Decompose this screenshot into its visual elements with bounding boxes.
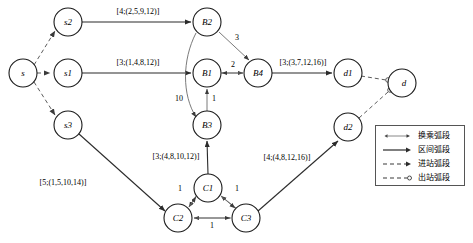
legend-item-entry: 进站弧段 xyxy=(376,157,464,171)
node-s2[interactable]: s2 xyxy=(54,8,82,36)
weight-label-C3-C1: 1 xyxy=(235,184,239,193)
node-C3[interactable]: C3 xyxy=(232,204,260,232)
node-label: C1 xyxy=(203,183,214,193)
edge-label-C1-B3: [3;(4,8,10,12)] xyxy=(153,152,200,161)
edge-label-C3-d2: [4;(4,8,12,16)] xyxy=(264,153,311,162)
edge-label-s3-C2: [5;(1,5,10,14)] xyxy=(40,178,87,187)
weight-label-B3-B1: 1 xyxy=(212,94,216,103)
section-arc-icon xyxy=(380,145,414,155)
legend-item-section: 区间弧段 xyxy=(376,143,464,157)
edge-C1-C3 xyxy=(221,196,235,208)
edge-B2-B4 xyxy=(219,32,249,60)
node-label: s3 xyxy=(64,120,73,130)
graph-canvas: s s2 s1 s3 B2 B1 xyxy=(0,0,473,243)
node-s[interactable]: s xyxy=(9,59,37,87)
node-label: s xyxy=(21,68,25,78)
node-label: B1 xyxy=(202,68,212,78)
node-label: C3 xyxy=(241,213,252,223)
weight-label-C1-C2: 1 xyxy=(178,184,182,193)
edge-C1-B3 xyxy=(207,141,208,174)
node-label: s1 xyxy=(64,68,72,78)
edge-C2-C1 xyxy=(189,197,196,207)
legend-label-exit: 出站弧段 xyxy=(418,173,450,183)
exit-arc-icon xyxy=(380,173,414,183)
node-C2[interactable]: C2 xyxy=(164,204,192,232)
nodes: s s2 s1 s3 B2 B1 xyxy=(9,8,416,232)
legend-label-transfer: 换乘弧段 xyxy=(418,131,450,141)
node-label: s2 xyxy=(64,17,73,27)
edge-label-B4-d1: [3;(3,7,12,16)] xyxy=(280,58,327,67)
node-label: C2 xyxy=(173,213,184,223)
weight-label-B1-B4: 2 xyxy=(231,60,235,69)
node-s3[interactable]: s3 xyxy=(54,111,82,139)
legend-label-section: 区间弧段 xyxy=(418,145,450,155)
edge-labels: [4;(2,5,9,12)] [3;(1,4,8,12)] [3;(3,7,12… xyxy=(40,7,327,230)
node-label: d xyxy=(402,78,407,88)
edge-d1-d xyxy=(361,76,386,80)
node-label: B2 xyxy=(202,17,212,27)
edge-s-s2 xyxy=(34,31,55,65)
node-label: B3 xyxy=(202,120,212,130)
node-d[interactable]: d xyxy=(388,69,416,97)
legend-item-exit: 出站弧段 xyxy=(376,171,464,185)
entry-arc-icon xyxy=(380,159,414,169)
edge-C3-d2 xyxy=(258,141,338,211)
transfer-arc-icon xyxy=(380,131,414,141)
edge-d2-d xyxy=(359,92,388,118)
node-label: B4 xyxy=(253,68,263,78)
edge-s3-C2 xyxy=(79,134,165,211)
node-label: d1 xyxy=(344,68,353,78)
node-B2[interactable]: B2 xyxy=(193,8,221,36)
legend-label-entry: 进站弧段 xyxy=(418,159,450,169)
edge-label-s2-B2: [4;(2,5,9,12)] xyxy=(117,7,160,16)
legend-item-transfer: 换乘弧段 xyxy=(376,129,464,143)
legend: 换乘弧段 区间弧段 进站弧段 出站弧段 xyxy=(375,125,465,186)
weight-label-B2-B3: 10 xyxy=(175,94,183,103)
weight-label-C3-C2: 1 xyxy=(210,221,214,230)
node-d1[interactable]: d1 xyxy=(334,59,362,87)
weight-label-B2-B4: 3 xyxy=(235,33,239,42)
node-C1[interactable]: C1 xyxy=(194,174,222,202)
exit-arcs xyxy=(359,76,392,118)
node-B1[interactable]: B1 xyxy=(193,59,221,87)
edge-s-s3 xyxy=(34,82,55,115)
network-diagram: s s2 s1 s3 B2 B1 xyxy=(0,0,473,243)
node-label: d2 xyxy=(344,122,354,132)
node-d2[interactable]: d2 xyxy=(334,113,362,141)
node-B4[interactable]: B4 xyxy=(244,59,272,87)
node-s1[interactable]: s1 xyxy=(54,59,82,87)
edge-label-s1-B1: [3;(1,4,8,12)] xyxy=(117,58,160,67)
node-B3[interactable]: B3 xyxy=(193,111,221,139)
